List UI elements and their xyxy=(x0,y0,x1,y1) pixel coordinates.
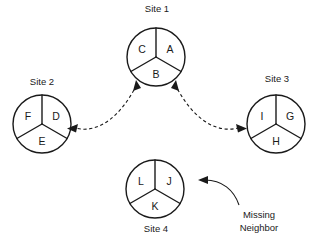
site-node-site-4[interactable]: J K L Site 4 xyxy=(126,160,184,234)
site-label-site-4: Site 4 xyxy=(144,223,168,234)
link-site1-site2 xyxy=(67,80,141,133)
sector-label-a: A xyxy=(166,43,173,55)
sector-label-e: E xyxy=(38,135,45,147)
sector-label-d: D xyxy=(52,110,60,122)
diagram-canvas: Site 1 A B C Site 2 D E F Site 3 xyxy=(0,0,316,245)
sector-label-j: J xyxy=(166,175,171,187)
sector-label-b: B xyxy=(152,68,159,80)
arrowhead-toward-site-3 xyxy=(236,124,247,133)
site-label-site-2: Site 2 xyxy=(30,76,54,87)
sector-label-i: I xyxy=(261,110,264,122)
site-label-site-1: Site 1 xyxy=(145,3,169,14)
annotation-text-line-1: Missing xyxy=(243,209,275,220)
annotation-curve-path xyxy=(205,180,239,205)
arrowhead-toward-site-4 xyxy=(198,176,208,184)
annotation-missing-neighbor: Missing Neighbor xyxy=(198,176,278,233)
site-node-site-2[interactable]: Site 2 D E F xyxy=(13,76,71,153)
site-label-site-3: Site 3 xyxy=(265,73,289,84)
link-path-dashed xyxy=(72,84,137,129)
annotation-text-line-2: Neighbor xyxy=(240,222,279,233)
link-path-dashed xyxy=(175,84,242,129)
link-site1-site3 xyxy=(171,80,247,133)
sector-label-k: K xyxy=(151,200,158,212)
sector-label-f: F xyxy=(25,110,31,122)
site-node-site-1[interactable]: Site 1 A B C xyxy=(127,3,185,86)
sector-label-c: C xyxy=(138,43,146,55)
sector-label-l: L xyxy=(138,175,144,187)
sector-label-g: G xyxy=(286,110,294,122)
sector-label-h: H xyxy=(272,135,280,147)
site-node-site-3[interactable]: Site 3 G H I xyxy=(247,73,305,153)
network-topology-diagram: Site 1 A B C Site 2 D E F Site 3 xyxy=(0,0,316,245)
